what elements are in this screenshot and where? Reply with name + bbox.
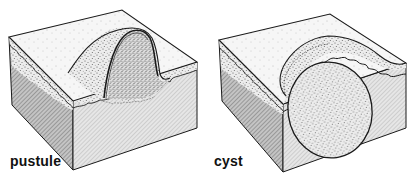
pustule-figure: pustule [0, 0, 207, 184]
cyst-figure: cyst [208, 0, 415, 184]
pustule-label: pustule [10, 153, 61, 169]
cyst-label: cyst [214, 153, 243, 169]
